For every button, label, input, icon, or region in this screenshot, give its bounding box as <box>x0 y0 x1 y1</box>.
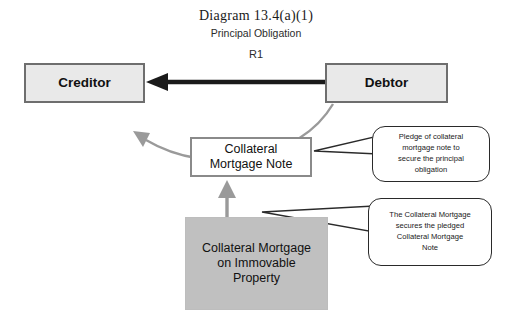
node-mortgage-line1: Collateral Mortgage <box>202 241 311 256</box>
callout-pledge[interactable]: Pledge of collateral mortgage note to se… <box>372 126 490 182</box>
node-creditor-label: Creditor <box>58 75 111 91</box>
node-debtor-label: Debtor <box>365 75 409 91</box>
node-creditor[interactable]: Creditor <box>24 63 145 103</box>
callout-pledge-line2: mortgage note to <box>398 143 464 154</box>
callout-secures-line2: secures the pledged <box>389 221 470 232</box>
callout-pledge-line4: obligation <box>398 165 464 176</box>
callout-secures[interactable]: The Collateral Mortgage secures the pled… <box>368 198 492 266</box>
callout-pledge-line1: Pledge of collateral <box>398 132 464 143</box>
diagram-canvas: Diagram 13.4(a)(1) Principal Obligation … <box>0 0 512 323</box>
pledge-callout-tail <box>314 136 378 154</box>
callout-secures-line3: Collateral Mortgage <box>389 232 470 243</box>
node-note-line1: Collateral <box>210 142 293 157</box>
node-note-line2: Mortgage Note <box>210 157 293 172</box>
node-debtor[interactable]: Debtor <box>325 63 448 103</box>
callout-pledge-line3: secure the principal <box>398 154 464 165</box>
secures-arrow <box>218 180 236 217</box>
node-collateral-mortgage-note[interactable]: Collateral Mortgage Note <box>190 137 312 177</box>
callout-secures-line1: The Collateral Mortgage <box>389 210 470 221</box>
node-mortgage-line2: on Immovable <box>202 256 311 271</box>
node-mortgage-line3: Property <box>202 271 311 286</box>
principal-obligation-arrow <box>146 73 325 91</box>
callout-secures-line4: Note <box>389 243 470 254</box>
node-collateral-mortgage-immovable[interactable]: Collateral Mortgage on Immovable Propert… <box>185 217 328 310</box>
